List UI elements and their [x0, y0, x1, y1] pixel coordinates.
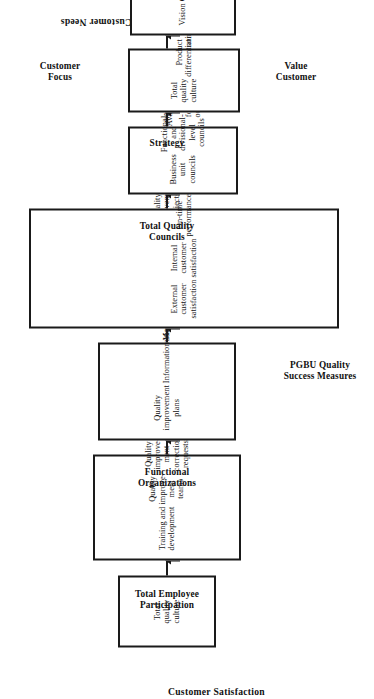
item-label: Information	[162, 341, 171, 384]
node-items: Total quality culture Product differenti…	[134, 57, 234, 103]
arrow-connector-stub	[166, 35, 168, 48]
arrow-connector-stub	[166, 112, 168, 126]
node-total-quality-councils[interactable]: Business unit councils Functional- and d…	[128, 126, 238, 194]
node-customer-focus[interactable]: Vision Goal Policy	[130, 0, 236, 35]
arrow-connector-stub	[166, 328, 168, 342]
arrow-connector-stub	[166, 194, 168, 208]
item-label: Vision	[178, 2, 187, 26]
item-label: Internal customer satisfaction	[170, 237, 198, 278]
node-items: Quality improvement plans Information Me…	[104, 351, 230, 431]
label-customer-focus: Customer Focus	[40, 60, 80, 82]
figure-bottom-caption: Customer Needs	[61, 16, 132, 27]
item-label: Quality improvement plans	[153, 384, 181, 431]
arrow-connector-stub	[166, 560, 168, 575]
label-total-quality-councils: Total Quality Councils	[140, 220, 195, 242]
item-label: Total quality culture	[170, 77, 198, 103]
node-total-quality-culture[interactable]: Total quality culture	[118, 575, 216, 647]
item-label: External customer satisfaction	[170, 278, 198, 319]
arrow-connector-stub	[166, 440, 168, 454]
item-label: Business unit councils	[169, 153, 197, 185]
item-label: Training and development	[158, 505, 177, 551]
node-strategy[interactable]: Total quality culture Product differenti…	[128, 48, 240, 112]
label-strategy: Strategy	[150, 138, 185, 149]
label-pgbu-quality-success-measures: PGBU Quality Success Measures	[284, 359, 357, 381]
label-functional-organizations: Functional Organizations	[138, 466, 196, 488]
item-label: Goal	[178, 0, 187, 2]
figure-title: Customer Satisfaction	[168, 685, 265, 696]
label-value-customer: Value Customer	[276, 60, 316, 82]
label-total-employee-participation: Total Employee Participation	[135, 588, 199, 610]
flowchart-figure: Customer Satisfaction Customer Needs Tot…	[0, 0, 374, 699]
flowchart-chain: Customer Satisfaction Customer Needs Tot…	[0, 0, 374, 699]
node-functional-organizations[interactable]: Quality improvement plans Information Me…	[98, 342, 236, 440]
node-items: Vision Goal Policy	[136, 0, 230, 26]
